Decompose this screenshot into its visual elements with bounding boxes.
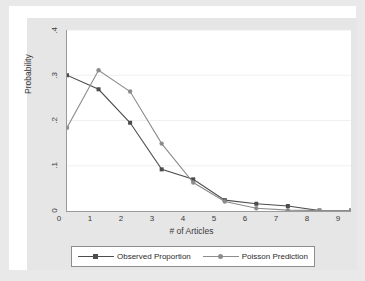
legend-marker-observed [93, 254, 98, 259]
gridlines [67, 30, 351, 166]
x-tick-label-8: 8 [300, 214, 314, 223]
x-tick-label-9: 9 [331, 214, 345, 223]
x-tick-label-4: 4 [176, 214, 190, 223]
chart-figure: Probability 0 .1 .2 .3 .4 0 1 2 3 4 5 6 … [0, 0, 365, 281]
data-series-layer [67, 68, 351, 211]
x-tick-label-0: 0 [52, 214, 66, 223]
legend-key-poisson [203, 252, 239, 261]
x-tick-label-7: 7 [269, 214, 283, 223]
x-tick-label-3: 3 [145, 214, 159, 223]
y-axis-title: Probability [23, 54, 33, 94]
plot-area [66, 30, 351, 212]
x-tick-label-6: 6 [238, 214, 252, 223]
legend-entry-poisson: Poisson Prediction [203, 252, 308, 261]
y-tick-label-3: .3 [50, 69, 59, 83]
legend-marker-poisson [218, 254, 223, 259]
legend-label-poisson: Poisson Prediction [242, 252, 308, 261]
x-axis-title: # of Articles [9, 226, 365, 236]
legend-key-observed [78, 252, 114, 261]
y-tick-label-1: .1 [50, 159, 59, 173]
legend-label-observed: Observed Proportion [117, 252, 191, 261]
chart-svg [67, 30, 351, 211]
y-tick-label-2: .2 [50, 114, 59, 128]
y-tick-label-4: .4 [50, 24, 59, 38]
x-tick-label-5: 5 [207, 214, 221, 223]
x-tick-label-1: 1 [83, 214, 97, 223]
x-tick-label-2: 2 [114, 214, 128, 223]
legend-entry-observed: Observed Proportion [78, 252, 191, 261]
graph-region: Probability 0 .1 .2 .3 .4 0 1 2 3 4 5 6 … [9, 6, 356, 270]
chart-legend: Observed Proportion Poisson Prediction [71, 246, 315, 267]
